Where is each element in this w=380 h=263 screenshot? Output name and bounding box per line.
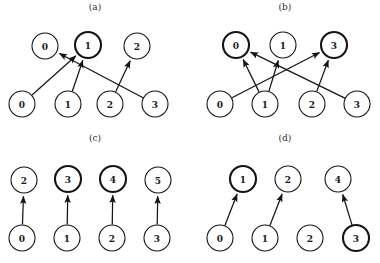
node-c-bot-1[interactable]: 1 [54, 225, 80, 251]
node-d-bot-2[interactable]: 2 [297, 225, 323, 251]
nodes-layer: 01201230130123234501231240123 [9, 32, 370, 251]
node-label-d-bot-1: 1 [262, 234, 268, 244]
node-label-c-top-5: 5 [155, 176, 161, 186]
edge-d-bot-1-to-d-top-2 [270, 194, 282, 225]
node-label-b-top-0: 0 [233, 41, 239, 51]
node-d-top-4[interactable]: 4 [325, 166, 351, 192]
edge-b-bot-1-to-b-top-1 [269, 60, 278, 91]
node-c-top-4[interactable]: 4 [100, 166, 126, 192]
node-a-bot-2[interactable]: 2 [97, 91, 123, 117]
node-a-top-2[interactable]: 2 [124, 33, 150, 59]
node-label-c-bot-0: 0 [19, 234, 25, 244]
node-label-a-bot-2: 2 [107, 100, 113, 110]
node-c-bot-2[interactable]: 2 [99, 225, 125, 251]
node-b-top-3[interactable]: 3 [321, 32, 347, 58]
node-label-a-bot-0: 0 [19, 100, 25, 110]
edge-d-bot-3-to-d-top-4 [343, 194, 352, 225]
edge-c-bot-2-to-c-top-4 [112, 195, 113, 224]
node-label-d-top-4: 4 [335, 175, 341, 185]
node-label-b-bot-3: 3 [354, 100, 360, 110]
node-b-bot-3[interactable]: 3 [344, 91, 370, 117]
node-b-top-1[interactable]: 1 [270, 32, 296, 58]
node-c-top-2[interactable]: 2 [11, 167, 37, 193]
node-d-top-2[interactable]: 2 [275, 166, 301, 192]
bipartite-graph-figure: 01201230130123234501231240123 (a)(b)(c)(… [0, 0, 380, 263]
node-c-bot-0[interactable]: 0 [9, 225, 35, 251]
panel-labels-layer: (a)(b)(c)(d) [89, 2, 292, 143]
node-a-bot-3[interactable]: 3 [142, 91, 168, 117]
node-label-a-top-0: 0 [42, 42, 48, 52]
node-label-d-bot-0: 0 [217, 234, 223, 244]
panel-label-a: (a) [89, 2, 101, 12]
edge-b-bot-1-to-b-top-0 [243, 60, 259, 92]
node-label-d-top-2: 2 [285, 175, 291, 185]
node-d-bot-3[interactable]: 3 [343, 225, 369, 251]
node-label-c-bot-2: 2 [109, 234, 115, 244]
node-label-b-bot-2: 2 [309, 100, 315, 110]
node-label-b-bot-0: 0 [217, 100, 223, 110]
node-c-top-3[interactable]: 3 [55, 166, 81, 192]
node-label-b-bot-1: 1 [262, 100, 268, 110]
node-c-top-5[interactable]: 5 [145, 167, 171, 193]
node-d-bot-0[interactable]: 0 [207, 225, 233, 251]
node-label-a-bot-1: 1 [65, 100, 71, 110]
node-a-top-0[interactable]: 0 [32, 33, 58, 59]
node-d-top-1[interactable]: 1 [230, 166, 256, 192]
node-label-d-top-1: 1 [240, 175, 246, 185]
node-b-top-0[interactable]: 0 [223, 32, 249, 58]
edge-d-bot-0-to-d-top-1 [225, 194, 237, 225]
node-label-a-top-1: 1 [85, 41, 91, 51]
node-label-c-bot-1: 1 [64, 234, 70, 244]
node-a-bot-0[interactable]: 0 [9, 91, 35, 117]
node-b-bot-0[interactable]: 0 [207, 91, 233, 117]
edge-b-bot-0-to-b-top-3 [232, 52, 320, 97]
node-b-bot-1[interactable]: 1 [252, 91, 278, 117]
node-d-bot-1[interactable]: 1 [252, 225, 278, 251]
panel-label-d: (d) [279, 133, 292, 143]
edges-layer [22, 52, 352, 225]
node-b-bot-2[interactable]: 2 [299, 91, 325, 117]
node-label-c-top-2: 2 [21, 176, 27, 186]
node-a-bot-1[interactable]: 1 [55, 91, 81, 117]
edge-a-bot-0-to-a-top-1 [32, 56, 76, 95]
figure-canvas: 01201230130123234501231240123 (a)(b)(c)(… [0, 0, 380, 263]
node-label-b-top-1: 1 [280, 41, 286, 51]
node-label-d-bot-2: 2 [307, 234, 313, 244]
node-label-c-top-3: 3 [65, 175, 71, 185]
node-label-a-top-2: 2 [134, 42, 140, 52]
node-label-c-top-4: 4 [110, 175, 116, 185]
node-label-c-bot-3: 3 [154, 234, 160, 244]
node-a-top-1[interactable]: 1 [75, 32, 101, 58]
edge-c-bot-0-to-c-top-2 [22, 196, 23, 224]
node-label-a-bot-3: 3 [152, 100, 158, 110]
node-c-bot-3[interactable]: 3 [144, 225, 170, 251]
node-label-b-top-3: 3 [331, 41, 337, 51]
panel-label-b: (b) [279, 2, 292, 12]
edge-c-bot-1-to-c-top-3 [67, 195, 68, 224]
node-label-d-bot-3: 3 [353, 234, 359, 244]
panel-label-c: (c) [89, 133, 101, 143]
